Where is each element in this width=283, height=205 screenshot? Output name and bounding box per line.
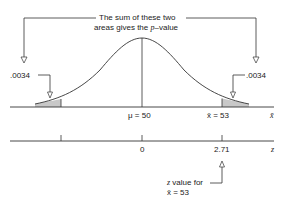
- right-tail-area-label: .0034: [246, 71, 266, 80]
- xbar-axis-symbol: x̄: [270, 111, 274, 120]
- annotation-line1: The sum of these two: [99, 13, 175, 22]
- annotation-line2: areas gives the p–value: [94, 23, 178, 32]
- xbar-value-label: x̄ = 53: [207, 111, 229, 120]
- z-axis-symbol: z: [271, 145, 274, 154]
- z-note-line1: z value for: [167, 178, 203, 187]
- mu-label: μ = 50: [128, 111, 151, 120]
- z-note-line2: x̄ = 53: [167, 188, 189, 197]
- z-zero-label: 0: [140, 145, 144, 154]
- left-tail-area-label: .0034: [10, 71, 30, 80]
- z-value-label: 2.71: [214, 145, 230, 154]
